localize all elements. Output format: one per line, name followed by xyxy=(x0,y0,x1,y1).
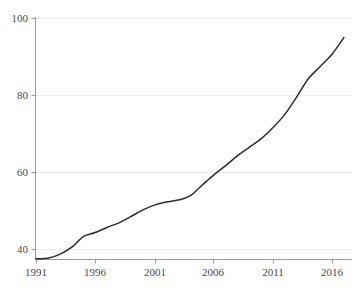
x-tick-label: 2001 xyxy=(130,267,180,278)
axis-lines-group xyxy=(35,17,352,260)
y-tick-label: 40 xyxy=(0,244,28,255)
x-tick-label: 2006 xyxy=(188,267,238,278)
x-tick-label: 2011 xyxy=(248,267,298,278)
tick-marks-group xyxy=(32,19,333,264)
chart-plot-area xyxy=(0,0,359,293)
line-chart: 406080100 199119962001200620112016 xyxy=(0,0,359,293)
y-tick-label: 80 xyxy=(0,90,28,101)
x-tick-label: 1991 xyxy=(11,267,61,278)
gridlines-group xyxy=(36,19,352,250)
y-tick-label: 60 xyxy=(0,167,28,178)
y-tick-label: 100 xyxy=(0,13,28,24)
x-tick-label: 1996 xyxy=(70,267,120,278)
x-tick-label: 2016 xyxy=(307,267,357,278)
data-series-line xyxy=(36,38,344,259)
